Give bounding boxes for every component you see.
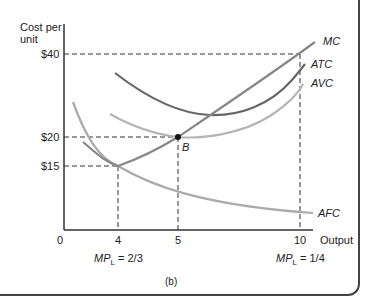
point-b-marker (175, 134, 181, 140)
avc-label: AVC (311, 78, 333, 89)
afc-curve (73, 102, 313, 213)
mc-curve (83, 42, 315, 166)
x-tick-10: 10 (294, 235, 306, 246)
x-axis-label: Output (320, 235, 353, 246)
avc-curve (110, 84, 303, 137)
point-b-label: B (182, 142, 189, 153)
mc-label: MC (323, 36, 340, 47)
y-tick-15: $15 (41, 161, 59, 172)
atc-curve (115, 64, 305, 115)
x-tick-4: 4 (115, 235, 121, 246)
x-tick-5: 5 (175, 235, 181, 246)
afc-label: AFC (318, 208, 340, 219)
x-tick-0: 0 (57, 235, 63, 246)
y-tick-20: $20 (41, 132, 59, 143)
mpl-right-annotation: MPL = 1/4 (276, 253, 325, 267)
y-tick-40: $40 (41, 49, 59, 60)
y-axis-label-line1: Cost per (20, 22, 62, 33)
panel-label: (b) (165, 277, 177, 287)
atc-label: ATC (311, 59, 332, 70)
mpl-left-annotation: MPL = 2/3 (94, 253, 143, 267)
y-axis-label-line2: unit (20, 34, 38, 45)
